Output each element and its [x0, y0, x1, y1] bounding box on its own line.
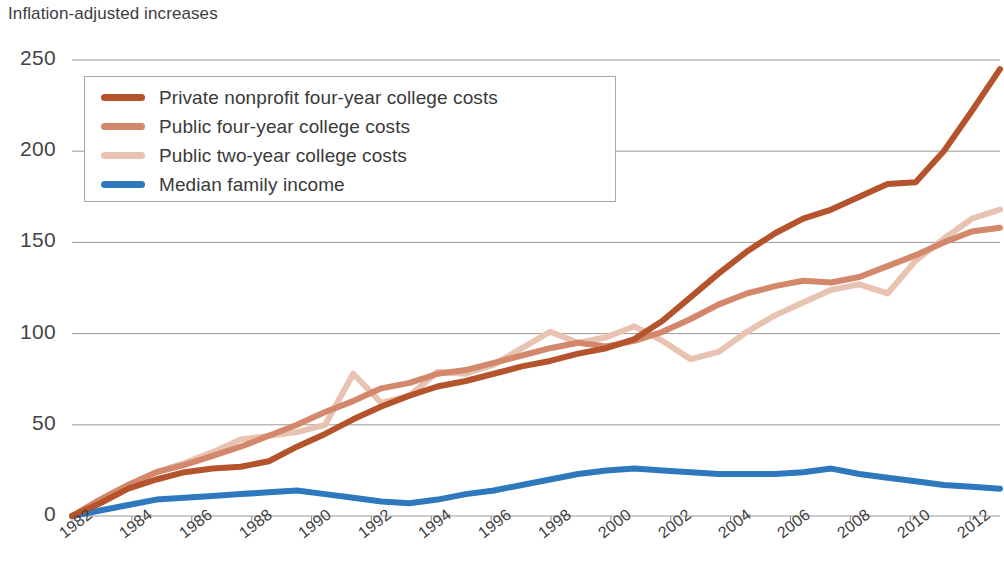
legend-swatch-icon	[101, 152, 145, 159]
y-axis-tick-label: 250	[0, 46, 56, 70]
chart-container: Inflation-adjusted increases 05010015020…	[0, 0, 1004, 566]
y-axis-tick-label: 150	[0, 228, 56, 252]
legend-swatch-icon	[101, 94, 145, 101]
y-axis-tick-label: 200	[0, 137, 56, 161]
legend-item[interactable]: Public two-year college costs	[85, 141, 615, 170]
legend-item-label: Public two-year college costs	[159, 145, 407, 167]
legend-item-label: Private nonprofit four-year college cost…	[159, 87, 498, 109]
legend-item[interactable]: Private nonprofit four-year college cost…	[85, 83, 615, 112]
legend-item[interactable]: Public four-year college costs	[85, 112, 615, 141]
legend-item[interactable]: Median family income	[85, 170, 615, 199]
y-axis-tick-label: 100	[0, 320, 56, 344]
chart-legend: Private nonprofit four-year college cost…	[84, 76, 616, 202]
legend-item-label: Median family income	[159, 174, 345, 196]
legend-swatch-icon	[101, 181, 145, 188]
legend-swatch-icon	[101, 123, 145, 130]
legend-item-label: Public four-year college costs	[159, 116, 410, 138]
y-axis-tick-label: 0	[0, 502, 56, 526]
y-axis-tick-label: 50	[0, 411, 56, 435]
